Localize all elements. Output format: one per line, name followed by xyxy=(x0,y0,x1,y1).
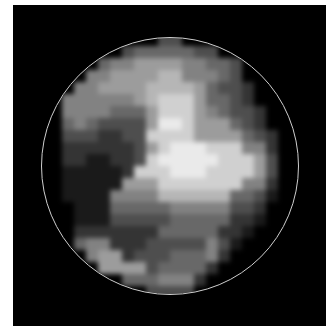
circle-outline xyxy=(41,37,299,295)
